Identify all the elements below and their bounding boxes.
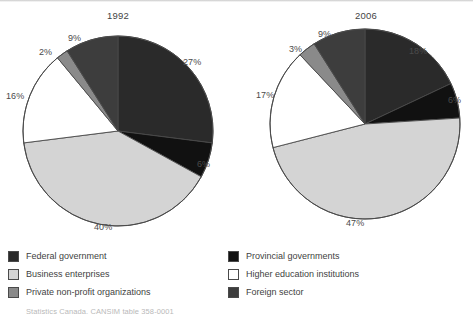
legend-swatch-higher-education-institutions xyxy=(228,269,239,280)
legend-label-private-non-profit-organizations: Private non-profit organizations xyxy=(26,288,151,297)
slice-label-1992-federal: 27% xyxy=(183,57,201,67)
legend-item-private-non-profit-organizations[interactable]: Private non-profit organizations xyxy=(8,284,151,300)
slice-label-1992-private-nonprofit: 2% xyxy=(39,47,52,57)
slice-label-1992-higher-ed: 16% xyxy=(6,91,24,101)
slice-label-1992-business: 40% xyxy=(94,222,112,232)
legend-swatch-business-enterprises xyxy=(8,269,19,280)
slice-label-2006-private-nonprofit: 3% xyxy=(289,44,302,54)
legend-item-foreign-sector[interactable]: Foreign sector xyxy=(228,284,359,300)
legend-item-provincial-governments[interactable]: Provincial governments xyxy=(228,248,359,264)
legend-label-higher-education-institutions: Higher education institutions xyxy=(246,270,359,279)
slice-label-1992-provincial: 6% xyxy=(197,159,210,169)
slice-label-2006-higher-ed: 17% xyxy=(256,90,274,100)
legend-column-left: Federal government Business enterprises … xyxy=(8,248,151,302)
pie-chart-2006 xyxy=(267,26,463,222)
slice-label-1992-foreign: 9% xyxy=(68,33,81,43)
source-note: Statistics Canada, CANSIM table 358-0001 xyxy=(26,307,174,314)
legend-column-right: Provincial governments Higher education … xyxy=(228,248,359,302)
legend-swatch-foreign-sector xyxy=(228,287,239,298)
legend-item-higher-education-institutions[interactable]: Higher education institutions xyxy=(228,266,359,282)
slice-label-2006-business: 47% xyxy=(346,218,364,228)
figure-root: 1992 27% 6% 40% 16% 2% 9% 2006 18% 6% 47… xyxy=(0,0,473,316)
pie-chart-2006-svg xyxy=(267,26,463,222)
legend: Federal government Business enterprises … xyxy=(0,248,473,298)
legend-item-federal-government[interactable]: Federal government xyxy=(8,248,151,264)
slice-label-2006-foreign: 9% xyxy=(318,29,331,39)
slice-label-2006-provincial: 6% xyxy=(448,95,461,105)
legend-swatch-private-non-profit-organizations xyxy=(8,287,19,298)
chart-title-1992: 1992 xyxy=(78,10,158,21)
slice-label-2006-federal: 18% xyxy=(409,46,427,56)
legend-swatch-federal-government xyxy=(8,251,19,262)
legend-swatch-provincial-governments xyxy=(228,251,239,262)
legend-label-foreign-sector: Foreign sector xyxy=(246,288,304,297)
legend-item-business-enterprises[interactable]: Business enterprises xyxy=(8,266,151,282)
chart-title-2006: 2006 xyxy=(326,10,406,21)
page-top-rule xyxy=(0,0,473,2)
pie-slice[interactable] xyxy=(118,36,213,143)
legend-label-federal-government: Federal government xyxy=(26,252,107,261)
legend-label-business-enterprises: Business enterprises xyxy=(26,270,110,279)
legend-label-provincial-governments: Provincial governments xyxy=(246,252,340,261)
